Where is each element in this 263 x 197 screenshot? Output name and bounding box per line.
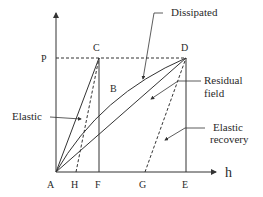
- dissipated-leader: [143, 13, 163, 79]
- annotation-elastic: Elastic: [12, 111, 42, 122]
- annotation-dissipated: Dissipated: [171, 7, 217, 18]
- elastic-recovery-leader: [165, 128, 205, 140]
- annotation-elastic-recovery-1: Elastic: [213, 122, 243, 133]
- residual-field-leader: [151, 81, 201, 99]
- point-label-d: D: [181, 43, 188, 53]
- annotation-field: field: [204, 88, 224, 99]
- point-label-e: E: [182, 180, 188, 190]
- point-label-c: C: [93, 43, 100, 53]
- annotation-elastic-recovery-2: recovery: [210, 134, 248, 145]
- elastic-line-a-c: [56, 58, 99, 172]
- annotation-residual: Residual: [204, 75, 243, 86]
- point-label-a: A: [47, 180, 54, 190]
- point-label-b: B: [110, 84, 117, 94]
- point-label-g: G: [139, 180, 146, 190]
- point-label-p: P: [41, 54, 47, 64]
- x-axis-label: h: [225, 166, 232, 180]
- unloading-line-a-d: [56, 58, 186, 172]
- point-label-f: F: [95, 180, 101, 190]
- point-label-h: H: [71, 180, 78, 190]
- dashed-line-h-c: [76, 58, 99, 172]
